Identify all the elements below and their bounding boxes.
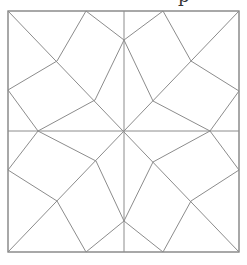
pattern-edge — [124, 40, 153, 101]
pattern-edge — [163, 201, 191, 252]
pattern-edge — [38, 100, 95, 131]
pattern-edge — [96, 161, 124, 221]
pattern-edge — [57, 201, 86, 252]
star-tiling-diagram — [0, 0, 247, 265]
pattern-edge — [8, 131, 38, 170]
pattern-edge — [8, 170, 57, 201]
pattern-edge — [124, 162, 153, 221]
pattern-edge — [57, 11, 86, 61]
pattern-edge — [95, 40, 124, 100]
pattern-edge — [210, 91, 239, 131]
pattern-edge — [38, 131, 96, 161]
pattern-edge — [191, 170, 239, 201]
pattern-edge — [8, 61, 57, 90]
pattern-edge — [8, 90, 38, 131]
pattern-edge — [163, 11, 191, 61]
pattern-edge — [153, 131, 210, 162]
pattern-edge — [191, 61, 239, 91]
pattern-edges — [8, 11, 239, 252]
pattern-edge — [124, 11, 163, 40]
pattern-edge — [86, 221, 124, 252]
pattern-edge — [86, 11, 124, 40]
pattern-edge — [153, 101, 210, 131]
pattern-edge — [210, 131, 239, 170]
pattern-edge — [124, 221, 163, 252]
